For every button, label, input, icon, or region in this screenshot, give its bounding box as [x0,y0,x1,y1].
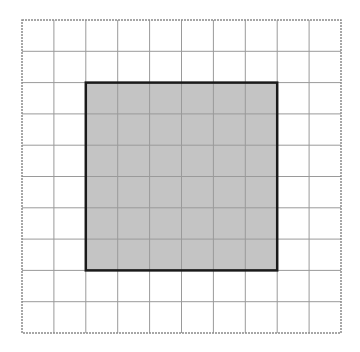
grid-svg [21,19,342,334]
grid-diagram [21,19,340,332]
